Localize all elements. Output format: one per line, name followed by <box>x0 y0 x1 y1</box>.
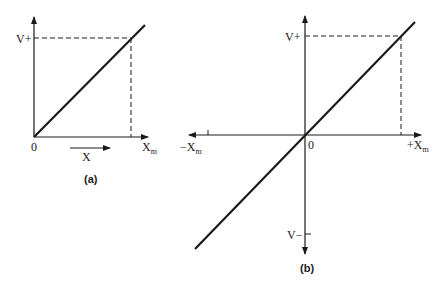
a-transfer-line <box>34 25 145 137</box>
b-caption: (b) <box>300 262 314 274</box>
a-caption: (a) <box>84 173 97 185</box>
b-vminus-label: V− <box>287 229 302 241</box>
figure-a <box>34 17 148 148</box>
b-neg-xm-sub: m <box>195 147 201 156</box>
b-pos-xm-label: +Xm <box>407 139 429 154</box>
a-xm-sub: m <box>151 147 157 156</box>
b-neg-xm-text: −X <box>180 140 195 154</box>
a-xm-label: Xm <box>142 141 157 156</box>
diagram-canvas <box>0 0 442 287</box>
a-xm-text: X <box>142 140 151 154</box>
a-x-label: X <box>82 151 91 163</box>
b-neg-xm-label: −Xm <box>180 141 202 156</box>
figure-b <box>189 16 421 254</box>
b-vplus-label: V+ <box>285 31 300 43</box>
a-vplus-label: V+ <box>16 33 31 45</box>
b-origin-label: 0 <box>308 139 314 151</box>
b-pos-xm-text: +X <box>407 138 422 152</box>
b-pos-xm-sub: m <box>422 145 428 154</box>
a-origin-label: 0 <box>31 141 37 153</box>
